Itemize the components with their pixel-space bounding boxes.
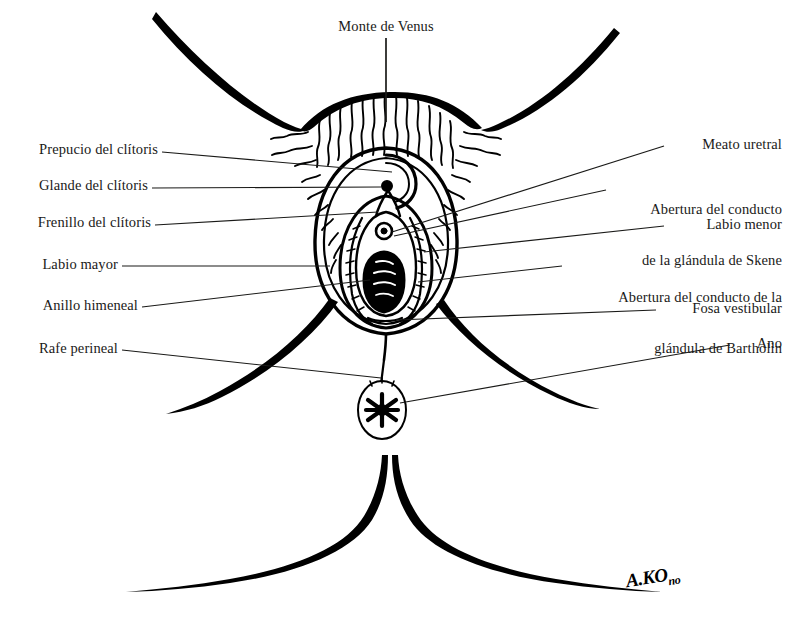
left-lower-thigh-contour bbox=[166, 298, 338, 414]
label-prepucio-del-clitoris: Prepucio del clítoris bbox=[0, 141, 158, 158]
label-monte-de-venus: Monte de Venus bbox=[306, 18, 466, 35]
gluteal-cleft-curve-right bbox=[392, 455, 662, 592]
anus-center bbox=[377, 405, 388, 416]
right-upper-thigh-contour bbox=[481, 28, 620, 132]
anatomical-diagram-page: Monte de Venus Prepucio del clítoris Gla… bbox=[0, 0, 788, 623]
label-labio-menor: Labio menor bbox=[620, 216, 782, 233]
label-rafe-perineal: Rafe perineal bbox=[0, 340, 118, 357]
label-abertura-conducto-bartholin: Abertura del conducto de la glándula de … bbox=[555, 255, 782, 391]
left-upper-thigh-contour bbox=[152, 12, 306, 132]
clitoral-glans bbox=[382, 181, 392, 191]
signature-suffix: no bbox=[667, 573, 681, 589]
leader-frenillo-del-clitoris bbox=[155, 212, 378, 225]
label-ano: Ano bbox=[700, 335, 782, 352]
gluteal-cleft-curve bbox=[126, 455, 388, 592]
urethral-meatus-center bbox=[381, 228, 387, 234]
label-labio-mayor: Labio mayor bbox=[0, 256, 118, 273]
vulva-structure bbox=[315, 148, 457, 439]
posterior-commissure bbox=[384, 334, 386, 360]
mons-pubis-arc bbox=[300, 92, 482, 132]
label-meato-uretral: Meato uretral bbox=[620, 136, 782, 153]
leader-glande-del-clitoris bbox=[152, 187, 381, 188]
label-frenillo-del-clitoris: Frenillo del clítoris bbox=[0, 214, 151, 231]
label-fosa-vestibular: Fosa vestibular bbox=[610, 300, 782, 317]
label-glande-del-clitoris: Glande del clítoris bbox=[0, 177, 148, 194]
label-anillo-himeneal: Anillo himeneal bbox=[0, 297, 138, 314]
